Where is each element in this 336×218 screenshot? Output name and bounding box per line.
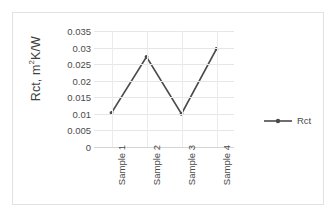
gridline-horizontal	[94, 48, 234, 49]
y-axis-tick-label: 0.02	[49, 75, 91, 86]
gridline-vertical	[217, 31, 218, 147]
x-axis-tick-label: Sample 3	[186, 145, 197, 203]
y-axis-tick-label: 0.005	[49, 125, 91, 136]
y-axis-tick-label: 0.025	[49, 59, 91, 70]
y-axis-tick-label: 0.01	[49, 108, 91, 119]
chart-legend: Rct	[263, 115, 311, 126]
plot-area	[94, 31, 234, 147]
gridline-horizontal	[94, 31, 234, 32]
x-axis-tick-label: Sample 4	[221, 145, 232, 203]
y-axis-tick-labels: 00.0050.010.0150.020.0250.030.035	[49, 31, 91, 147]
y-axis-tick-label: 0.035	[49, 26, 91, 37]
y-axis-title-prefix: Rct, m	[29, 64, 43, 101]
chart-container: Rct, m2K/W 00.0050.010.0150.020.0250.030…	[12, 12, 324, 205]
legend-line-marker-icon	[263, 116, 293, 126]
gridline-horizontal	[94, 114, 234, 115]
gridline-vertical	[182, 31, 183, 147]
y-axis-tick-label: 0	[49, 142, 91, 153]
legend-label-rct: Rct	[297, 115, 311, 126]
y-axis-title-suffix: K/W	[29, 36, 43, 60]
gridline-vertical	[112, 31, 113, 147]
gridline-horizontal	[94, 130, 234, 131]
y-axis-tick-label: 0.015	[49, 92, 91, 103]
y-axis-title: Rct, m2K/W	[27, 9, 42, 129]
x-axis-tick-label: Sample 2	[151, 145, 162, 203]
y-axis-title-superscript: 2	[27, 60, 36, 65]
gridline-horizontal	[94, 81, 234, 82]
gridline-horizontal	[94, 64, 234, 65]
gridline-vertical	[147, 31, 148, 147]
x-axis-tick-label: Sample 1	[116, 145, 127, 203]
x-axis-tick-labels: Sample 1Sample 2Sample 3Sample 4	[94, 147, 234, 205]
y-axis-tick-label: 0.03	[49, 42, 91, 53]
gridline-horizontal	[94, 97, 234, 98]
